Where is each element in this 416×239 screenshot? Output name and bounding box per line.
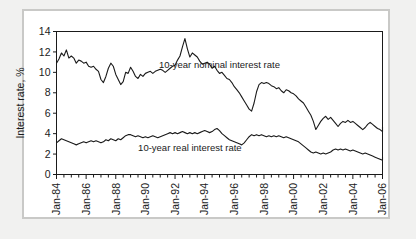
x-tick-label: Jan-98 [258,183,270,215]
x-tick-label: Jan-06 [376,183,388,215]
y-tick-label: 14 [39,25,51,37]
chart-plot-wrapper: 02468101214Interest rate, %Jan-84Jan-86J… [0,0,416,239]
y-axis-title: Interest rate, % [14,67,26,138]
y-tick-label: 2 [45,148,51,160]
x-tick-label: Jan-02 [317,183,329,215]
y-axis: 02468101214 [39,25,57,180]
y-tick-label: 0 [45,168,51,180]
series-annotation-nominal: 10-year nominal interest rate [159,59,280,70]
x-tick-label: Jan-96 [228,183,240,215]
x-axis: Jan-84Jan-86Jan-88Jan-90Jan-92Jan-94Jan-… [50,175,388,216]
y-tick-label: 12 [39,46,51,58]
x-tick-label: Jan-84 [50,183,62,215]
y-tick-label: 8 [45,86,51,98]
y-tick-label: 10 [39,66,51,78]
x-tick-label: Jan-92 [169,183,181,215]
plot-area [57,32,383,175]
x-tick-label: Jan-94 [198,183,210,215]
figure-container: 02468101214Interest rate, %Jan-84Jan-86J… [0,0,416,239]
x-tick-label: Jan-04 [347,183,359,215]
x-tick-label: Jan-90 [139,183,151,215]
y-tick-label: 4 [45,127,51,139]
x-tick-label: Jan-88 [110,183,122,215]
series-annotation-real: 10-year real interest rate [138,142,242,153]
x-tick-label: Jan-00 [287,183,299,215]
x-tick-label: Jan-86 [80,183,92,215]
line-chart: 02468101214Interest rate, %Jan-84Jan-86J… [0,0,416,239]
y-tick-label: 6 [45,107,51,119]
